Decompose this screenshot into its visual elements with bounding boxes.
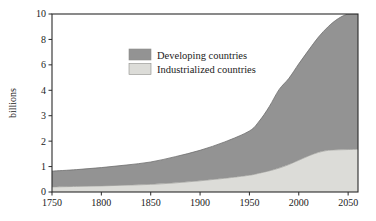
x-axis-tick-label: 1850 [141, 197, 161, 208]
legend-label: Developing countries [157, 50, 247, 61]
chart-canvas: 012346810 1750180018501900195020002050 b… [0, 0, 376, 221]
x-axis-tick-label: 2050 [338, 197, 358, 208]
x-axis-tick-label: 1750 [42, 197, 62, 208]
y-axis-tick-label: 4 [41, 85, 46, 96]
y-axis-tick-label: 6 [41, 59, 46, 70]
y-axis-tick-label: 10 [36, 8, 46, 19]
x-axis-tick-label: 2000 [289, 197, 309, 208]
y-axis-tick-label: 3 [41, 110, 46, 121]
legend-swatch [129, 64, 151, 75]
y-axis-tick-label: 8 [41, 34, 46, 45]
population-area-chart: 012346810 1750180018501900195020002050 b… [0, 0, 376, 221]
y-axis-tick-label: 2 [41, 136, 46, 147]
y-axis-tick-label: 0 [41, 186, 46, 197]
x-axis-tick-label: 1900 [190, 197, 210, 208]
x-axis-tick-label: 1950 [239, 197, 259, 208]
x-axis-tick-label: 1800 [91, 197, 111, 208]
legend-swatch [129, 49, 151, 60]
y-axis-tick-label: 1 [41, 161, 46, 172]
legend-label: Industrialized countries [157, 64, 256, 75]
y-axis-title: billions [7, 88, 18, 118]
